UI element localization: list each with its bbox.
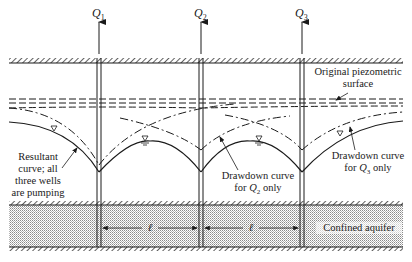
label-leaders — [62, 93, 355, 170]
spacing-label-2: ℓ — [245, 222, 257, 234]
confined-aquifer-label: Confined aquifer — [316, 222, 402, 234]
ground-surface — [9, 58, 403, 63]
well-label-q3: Q3 — [295, 6, 308, 22]
well-label-q1: Q1 — [92, 6, 105, 22]
drawdown-q2-label: Drawdown curve for Q2 only — [216, 170, 300, 198]
water-level-symbols — [51, 126, 343, 145]
original-surface-label: Original piezometric surface — [308, 66, 408, 90]
drawdown-q3-label: Drawdown curve for Q3 only — [326, 150, 410, 178]
original-piezometric-surface — [9, 99, 403, 108]
resultant-curve-label: Resultant curve; all three wells are pum… — [10, 151, 66, 199]
spacing-label-1: ℓ — [144, 222, 156, 234]
well-label-q2: Q2 — [194, 6, 207, 22]
